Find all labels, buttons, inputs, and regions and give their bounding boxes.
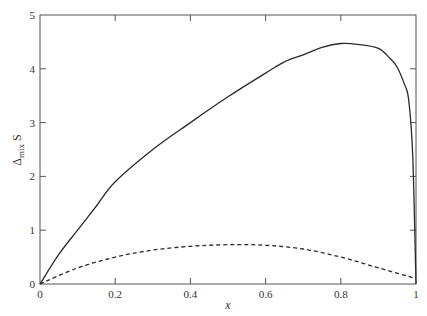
- x-tick-label: 1: [413, 288, 419, 300]
- series-solid-line: [40, 43, 416, 284]
- y-tick-label: 1: [30, 224, 36, 236]
- chart: 00.20.40.60.81 012345 x ΔmixS: [0, 0, 427, 316]
- plot-border: [40, 15, 416, 284]
- y-tick-label: 2: [30, 170, 36, 182]
- x-tick-label: 0: [37, 288, 43, 300]
- y-tick-label: 0: [30, 278, 36, 290]
- y-tick-label: 4: [30, 63, 36, 75]
- y-tick-labels: 012345: [30, 9, 36, 290]
- x-axis-label: x: [224, 298, 231, 312]
- axis-ticks: [40, 15, 416, 284]
- svg-text:ΔmixS: ΔmixS: [10, 134, 26, 165]
- series-dashed-line: [40, 245, 416, 284]
- x-tick-label: 0.6: [259, 288, 273, 300]
- plot-frame: [40, 15, 416, 284]
- y-axis-label-main: S: [10, 134, 24, 141]
- x-tick-label: 0.4: [184, 288, 198, 300]
- x-tick-label: 0.2: [108, 288, 122, 300]
- x-tick-label: 0.8: [334, 288, 348, 300]
- y-axis-label: ΔmixS: [10, 134, 26, 165]
- y-tick-label: 3: [30, 117, 36, 129]
- y-tick-label: 5: [30, 9, 36, 21]
- y-axis-label-sub: mix: [16, 143, 26, 158]
- data-series: [40, 43, 416, 284]
